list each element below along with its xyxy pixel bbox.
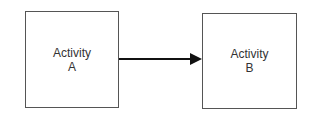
activity-b-line2: B [230, 61, 268, 75]
activity-b-label: Activity B [230, 47, 268, 75]
arrowhead-icon [190, 53, 202, 65]
activity-b-node: Activity B [202, 13, 297, 109]
activity-b-line1: Activity [230, 47, 268, 61]
